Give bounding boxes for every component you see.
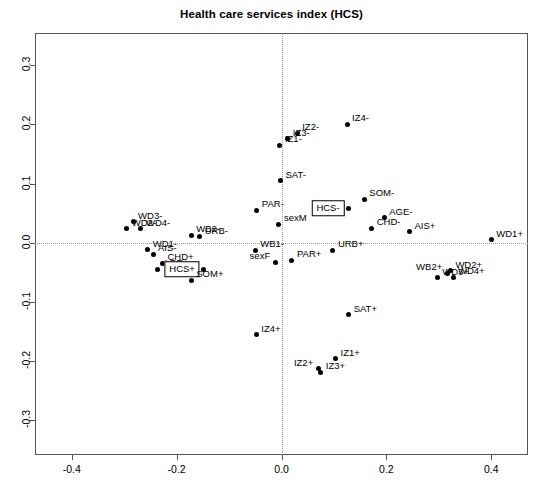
x-axis-tick	[282, 455, 283, 460]
data-point-label: IZ4-	[352, 114, 369, 124]
page-title: Health care services index (HCS)	[0, 8, 543, 20]
data-point-label: sexF	[250, 251, 271, 261]
x-axis-tick	[177, 455, 178, 460]
data-point-label: PAR+	[297, 249, 321, 259]
y-axis-tick-label: 0.2	[20, 108, 32, 138]
data-point[interactable]	[489, 237, 494, 242]
data-point[interactable]	[289, 258, 294, 263]
data-point-label-boxed: HCS-	[311, 201, 344, 217]
y-axis-tick-label: 0.1	[20, 168, 32, 198]
data-point[interactable]	[346, 312, 351, 317]
data-point-label: WB1-	[260, 239, 284, 249]
scatter-plot-area: IZ4-IZ2-IZ3-IZ1-SAT-SOM-HCS-PAR-AGE-sexM…	[35, 33, 528, 455]
y-axis-tick-label: 0.0	[20, 227, 32, 257]
data-point-label: IZ2+	[294, 358, 313, 368]
data-point[interactable]	[273, 260, 278, 265]
data-point[interactable]	[278, 178, 283, 183]
data-point[interactable]	[362, 197, 367, 202]
data-point-label: URB+	[338, 239, 364, 249]
chart-page: Health care services index (HCS) IZ4-IZ2…	[0, 0, 543, 495]
data-point[interactable]	[369, 226, 374, 231]
data-point-label: WD1+	[496, 229, 523, 239]
data-point[interactable]	[254, 332, 259, 337]
data-point-label: IZ1+	[341, 348, 360, 358]
data-point-label: SAT-	[285, 170, 305, 180]
y-axis-tick-label: 0.3	[20, 49, 32, 79]
data-point-label: WD4+	[458, 267, 485, 277]
y-axis-tick-label: -0.2	[20, 345, 32, 375]
data-point-label-boxed: HCS+	[164, 261, 200, 277]
data-point[interactable]	[189, 233, 194, 238]
data-point[interactable]	[345, 122, 350, 127]
data-point[interactable]	[407, 229, 412, 234]
x-axis-tick	[491, 455, 492, 460]
y-axis-tick-label: -0.1	[20, 286, 32, 316]
x-axis-tick-label: -0.4	[52, 463, 92, 475]
data-point-label: SAT+	[354, 304, 377, 314]
data-point[interactable]	[435, 275, 440, 280]
data-point[interactable]	[346, 206, 351, 211]
y-axis-tick-label: -0.3	[20, 404, 32, 434]
data-point-label: CHD-	[377, 218, 401, 228]
data-point[interactable]	[318, 370, 323, 375]
x-axis-tick-label: 0.2	[366, 463, 406, 475]
data-point[interactable]	[124, 226, 129, 231]
data-point-label: WB2+	[416, 262, 442, 272]
x-axis-tick-label: 0.0	[262, 463, 302, 475]
data-point-label: PAR-	[262, 199, 284, 209]
data-point[interactable]	[151, 252, 156, 257]
data-point-label: AGE-	[389, 207, 412, 217]
data-point-label: AIS+	[414, 221, 435, 231]
data-point[interactable]	[330, 248, 335, 253]
data-point-label: IZ1-	[285, 134, 302, 144]
x-axis-tick	[72, 455, 73, 460]
data-point[interactable]	[138, 226, 143, 231]
x-axis-tick	[386, 455, 387, 460]
data-point-label: IZ4+	[261, 324, 280, 334]
data-point[interactable]	[451, 275, 456, 280]
data-point[interactable]	[145, 247, 150, 252]
x-axis-tick-label: -0.2	[157, 463, 197, 475]
data-point[interactable]	[189, 278, 194, 283]
data-point-label: SOM+	[196, 270, 223, 280]
data-point-label: sexM	[284, 213, 307, 223]
data-point-label: IZ3+	[326, 362, 345, 372]
data-point-label: WD4-	[146, 218, 170, 228]
data-point[interactable]	[197, 234, 202, 239]
data-point[interactable]	[254, 208, 259, 213]
x-axis-tick-label: 0.4	[471, 463, 511, 475]
data-point[interactable]	[155, 267, 160, 272]
data-point-label: SOM-	[369, 189, 394, 199]
data-point-label: URB-	[205, 226, 228, 236]
